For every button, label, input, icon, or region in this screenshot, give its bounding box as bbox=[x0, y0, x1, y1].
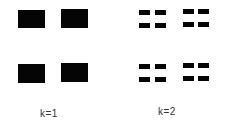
panel-label-k2: k=2 bbox=[158, 106, 176, 117]
block-k2 bbox=[139, 77, 150, 82]
panel-label-k1: k=1 bbox=[40, 108, 58, 119]
block-k1 bbox=[61, 9, 88, 28]
block-k1 bbox=[18, 10, 45, 28]
block-k2 bbox=[155, 77, 166, 82]
block-k1 bbox=[61, 63, 88, 82]
block-k2 bbox=[198, 63, 209, 68]
block-k2 bbox=[198, 22, 209, 27]
block-k2 bbox=[198, 9, 209, 14]
block-k2 bbox=[183, 63, 194, 68]
block-k2 bbox=[183, 9, 194, 14]
block-k2 bbox=[155, 10, 166, 15]
block-k2 bbox=[139, 64, 150, 69]
block-k2 bbox=[155, 64, 166, 69]
block-k1 bbox=[18, 64, 45, 83]
block-k2 bbox=[139, 10, 150, 15]
block-k2 bbox=[139, 23, 150, 28]
block-k2 bbox=[155, 23, 166, 28]
block-k2 bbox=[183, 76, 194, 81]
block-k2 bbox=[183, 22, 194, 27]
block-k2 bbox=[198, 76, 209, 81]
